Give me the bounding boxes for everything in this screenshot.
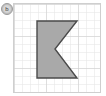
grid-paper-panel (13, 3, 101, 93)
grid-major-lines (14, 4, 100, 92)
badge-label: b (5, 6, 8, 12)
circle-badge-icon: b (1, 3, 13, 15)
figure-root: b (0, 0, 106, 96)
grid-background (14, 4, 100, 92)
